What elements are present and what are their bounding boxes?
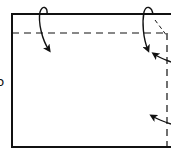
paper-outline xyxy=(12,14,171,147)
fold-diagram: b xyxy=(0,0,171,151)
fold-arrow-right-upper xyxy=(154,54,171,62)
fold-arrow-right-lower xyxy=(152,116,171,124)
side-label: b xyxy=(0,74,4,89)
